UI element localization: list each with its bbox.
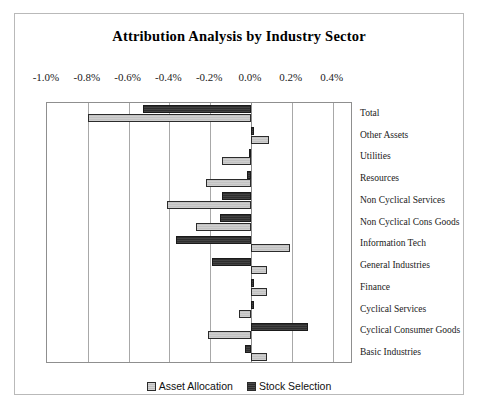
category-label: Non Cyclical Services	[360, 195, 445, 205]
bar-stock-selection	[251, 127, 254, 135]
category-label: Information Tech	[360, 238, 426, 248]
category-label: Finance	[360, 282, 390, 292]
category-label: Resources	[360, 173, 399, 183]
legend-label: Stock Selection	[259, 380, 331, 392]
bar-asset-allocation	[251, 288, 267, 296]
bar-group	[47, 234, 351, 256]
bar-group	[47, 277, 351, 299]
bar-stock-selection	[249, 149, 252, 157]
x-axis-tick-label: 0.4%	[320, 71, 343, 83]
x-axis-tick-label: -0.2%	[196, 71, 223, 83]
x-axis-tick-label: 0.0%	[239, 71, 262, 83]
bar-asset-allocation	[222, 157, 251, 165]
bar-group	[47, 299, 351, 321]
bar-asset-allocation	[251, 353, 267, 361]
x-axis-tick-label: -0.4%	[155, 71, 182, 83]
category-label: Total	[360, 108, 379, 118]
category-axis-labels: TotalOther AssetsUtilitiesResourcesNon C…	[360, 102, 483, 363]
bar-group	[47, 321, 351, 343]
bar-group	[47, 125, 351, 147]
legend-entry: Asset Allocation	[147, 380, 233, 392]
category-label: Non Cyclical Cons Goods	[360, 217, 459, 227]
bar-asset-allocation	[251, 136, 269, 144]
bar-asset-allocation	[239, 310, 251, 318]
legend-entry: Stock Selection	[247, 380, 331, 392]
category-label: Cyclical Services	[360, 304, 426, 314]
bar-group	[47, 103, 351, 125]
chart-frame: Attribution Analysis by Industry Sector …	[14, 13, 464, 395]
category-label: Utilities	[360, 151, 391, 161]
chart-title: Attribution Analysis by Industry Sector	[15, 28, 463, 45]
bar-asset-allocation	[206, 179, 251, 187]
chart-legend: Asset AllocationStock Selection	[15, 380, 463, 392]
legend-swatch-alloc	[147, 382, 156, 391]
bar-group	[47, 147, 351, 169]
category-label: Basic Industries	[360, 347, 421, 357]
bar-asset-allocation	[88, 114, 251, 122]
bar-group	[47, 255, 351, 277]
bar-group	[47, 212, 351, 234]
bar-stock-selection	[247, 171, 251, 179]
category-label: Other Assets	[360, 130, 408, 140]
category-label: General Industries	[360, 260, 430, 270]
bar-stock-selection	[251, 279, 254, 287]
bar-group	[47, 190, 351, 212]
bar-stock-selection	[176, 236, 251, 244]
x-axis-tick-label: -1.0%	[33, 71, 60, 83]
legend-swatch-sel	[247, 382, 256, 391]
x-axis-tick-label: -0.8%	[74, 71, 101, 83]
bar-group	[47, 168, 351, 190]
bar-asset-allocation	[196, 223, 251, 231]
bar-stock-selection	[245, 345, 251, 353]
category-label: Cyclical Consumer Goods	[360, 325, 460, 335]
bar-stock-selection	[143, 105, 251, 113]
x-axis-tick-labels: -1.0%-0.8%-0.6%-0.4%-0.2%0.0%0.2%0.4%	[15, 71, 463, 87]
bar-asset-allocation	[208, 331, 251, 339]
bars-layer	[47, 103, 351, 362]
plot-area	[46, 102, 352, 363]
bar-stock-selection	[222, 192, 251, 200]
x-axis-tick-label: -0.6%	[114, 71, 141, 83]
bar-asset-allocation	[251, 266, 267, 274]
bar-asset-allocation	[167, 201, 251, 209]
bar-stock-selection	[251, 323, 308, 331]
x-axis-tick-label: 0.2%	[279, 71, 302, 83]
bar-stock-selection	[212, 258, 251, 266]
bar-stock-selection	[220, 214, 251, 222]
legend-label: Asset Allocation	[159, 380, 233, 392]
bar-stock-selection	[251, 301, 254, 309]
bar-group	[47, 342, 351, 364]
bar-asset-allocation	[251, 244, 290, 252]
